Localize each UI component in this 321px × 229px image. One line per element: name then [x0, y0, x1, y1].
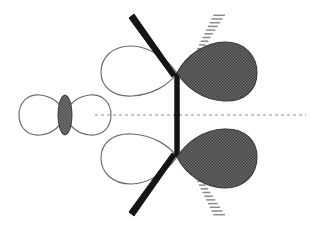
orbital-overlap-figure — [0, 0, 321, 229]
orbital-diagram-canvas — [0, 0, 321, 229]
p-orbital-node-ellipse — [58, 95, 72, 135]
